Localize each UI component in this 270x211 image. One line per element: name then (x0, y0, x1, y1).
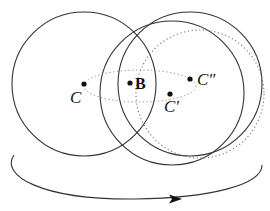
label-c-double-prime: C″ (197, 70, 216, 89)
point-b (127, 80, 132, 85)
circles-diagram: C B C′ C″ (0, 0, 270, 211)
label-c: C (70, 88, 82, 107)
point-c-double-prime (187, 76, 192, 81)
arrowhead-icon (169, 195, 182, 204)
rotation-arrow-path (11, 155, 262, 199)
label-b: B (135, 75, 146, 92)
label-c-prime: C′ (164, 97, 179, 116)
point-c (81, 81, 86, 86)
point-c-prime (167, 91, 172, 96)
